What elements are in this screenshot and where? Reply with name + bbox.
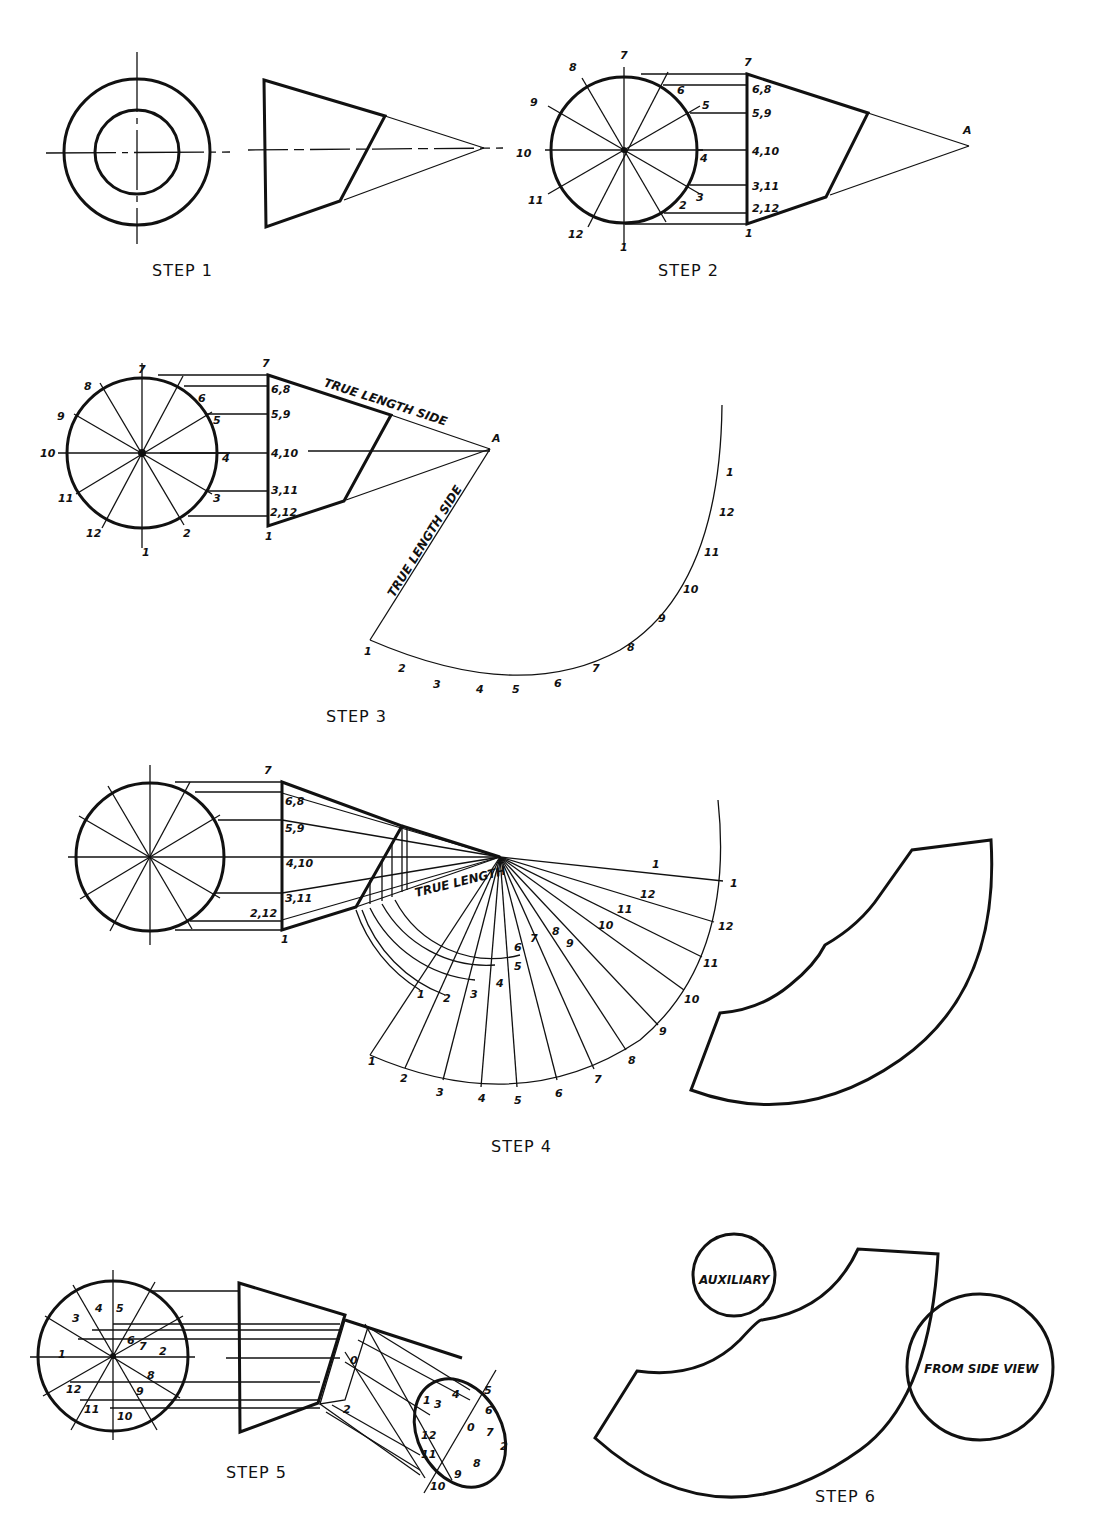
svg-text:10: 10 bbox=[430, 1480, 446, 1493]
svg-text:6: 6 bbox=[555, 1087, 563, 1100]
svg-text:1: 1 bbox=[417, 988, 425, 1001]
svg-text:6: 6 bbox=[677, 84, 685, 97]
svg-text:4: 4 bbox=[477, 1092, 486, 1105]
svg-text:1: 1 bbox=[423, 1394, 431, 1407]
step1-truncated-cone bbox=[264, 80, 385, 227]
svg-text:5,9: 5,9 bbox=[285, 822, 305, 835]
svg-text:9: 9 bbox=[659, 1025, 667, 1038]
svg-text:9: 9 bbox=[530, 96, 538, 109]
svg-text:5: 5 bbox=[116, 1302, 124, 1315]
svg-text:7: 7 bbox=[262, 357, 270, 370]
svg-text:1: 1 bbox=[265, 530, 273, 543]
svg-text:3: 3 bbox=[436, 1086, 444, 1099]
svg-text:2,12: 2,12 bbox=[752, 202, 779, 215]
svg-text:7: 7 bbox=[138, 363, 146, 376]
svg-text:4: 4 bbox=[221, 452, 230, 465]
step4-figure: 7 6,8 5,9 4,10 3,11 2,12 1 TRUE LENGTH 1… bbox=[68, 764, 992, 1107]
svg-text:0: 0 bbox=[467, 1421, 475, 1434]
step2-caption: STEP 2 bbox=[658, 261, 719, 280]
step3-caption: STEP 3 bbox=[326, 707, 387, 726]
svg-text:1: 1 bbox=[726, 466, 734, 479]
svg-text:1: 1 bbox=[58, 1348, 66, 1361]
svg-text:8: 8 bbox=[473, 1457, 481, 1470]
step1-figure bbox=[46, 52, 503, 244]
svg-text:1: 1 bbox=[652, 858, 660, 871]
step1-axis bbox=[248, 148, 503, 150]
svg-text:3: 3 bbox=[470, 988, 478, 1001]
svg-text:1: 1 bbox=[745, 227, 753, 240]
svg-text:12: 12 bbox=[719, 506, 735, 519]
svg-text:11: 11 bbox=[528, 194, 543, 207]
svg-text:6: 6 bbox=[198, 392, 206, 405]
svg-text:8: 8 bbox=[84, 380, 92, 393]
svg-text:10: 10 bbox=[40, 447, 56, 460]
svg-text:9: 9 bbox=[566, 937, 574, 950]
svg-text:7: 7 bbox=[264, 764, 272, 777]
svg-text:0: 0 bbox=[350, 1354, 358, 1367]
svg-text:6,8: 6,8 bbox=[271, 383, 291, 396]
svg-text:5: 5 bbox=[213, 414, 221, 427]
svg-text:3: 3 bbox=[696, 191, 704, 204]
svg-text:2: 2 bbox=[159, 1345, 167, 1358]
svg-text:5,9: 5,9 bbox=[752, 107, 772, 120]
step1-horizontal-centerline bbox=[46, 152, 230, 153]
svg-text:6: 6 bbox=[485, 1404, 493, 1417]
side-view-label: FROM SIDE VIEW bbox=[924, 1362, 1039, 1376]
svg-text:6: 6 bbox=[514, 941, 522, 954]
svg-text:4: 4 bbox=[451, 1388, 460, 1401]
drawing-sheet: STEP 1 7 8 9 10 11 12 1 2 bbox=[0, 0, 1107, 1533]
svg-text:10: 10 bbox=[117, 1410, 133, 1423]
svg-text:3: 3 bbox=[72, 1312, 80, 1325]
svg-text:1: 1 bbox=[620, 241, 628, 254]
svg-text:12: 12 bbox=[718, 920, 734, 933]
svg-text:5,9: 5,9 bbox=[271, 408, 291, 421]
svg-text:4: 4 bbox=[699, 152, 708, 165]
svg-text:2: 2 bbox=[500, 1440, 508, 1453]
auxiliary-label: AUXILIARY bbox=[698, 1273, 771, 1287]
svg-text:9: 9 bbox=[454, 1468, 462, 1481]
step6-caption: STEP 6 bbox=[815, 1487, 876, 1506]
svg-text:11: 11 bbox=[421, 1448, 436, 1461]
svg-text:10: 10 bbox=[516, 147, 532, 160]
svg-text:6,8: 6,8 bbox=[752, 83, 772, 96]
svg-text:3: 3 bbox=[433, 678, 441, 691]
svg-text:5: 5 bbox=[514, 1094, 522, 1107]
svg-text:1: 1 bbox=[730, 877, 738, 890]
step4-caption: STEP 4 bbox=[491, 1137, 552, 1156]
svg-text:1: 1 bbox=[368, 1055, 376, 1068]
svg-text:1: 1 bbox=[364, 645, 372, 658]
svg-text:5: 5 bbox=[512, 683, 520, 696]
svg-text:4,10: 4,10 bbox=[270, 447, 298, 460]
svg-text:10: 10 bbox=[683, 583, 699, 596]
svg-text:8: 8 bbox=[569, 61, 577, 74]
svg-text:5: 5 bbox=[484, 1384, 492, 1397]
svg-text:8: 8 bbox=[552, 925, 560, 938]
svg-text:8: 8 bbox=[627, 641, 635, 654]
step3-figure: 7 8 9 10 11 12 1 2 3 4 5 6 7 6,8 5,9 4,1… bbox=[40, 357, 735, 696]
svg-text:3,11: 3,11 bbox=[285, 892, 312, 905]
svg-text:11: 11 bbox=[704, 546, 719, 559]
svg-text:1: 1 bbox=[281, 933, 289, 946]
svg-text:2: 2 bbox=[443, 992, 451, 1005]
svg-text:9: 9 bbox=[57, 410, 65, 423]
svg-text:11: 11 bbox=[617, 903, 632, 916]
svg-text:3: 3 bbox=[213, 492, 221, 505]
svg-text:6: 6 bbox=[127, 1334, 135, 1347]
step4-outer-arc bbox=[370, 800, 721, 1084]
svg-text:A: A bbox=[491, 432, 501, 445]
svg-text:10: 10 bbox=[684, 993, 700, 1006]
step5-caption: STEP 5 bbox=[226, 1463, 287, 1482]
svg-text:6: 6 bbox=[554, 677, 562, 690]
svg-text:10: 10 bbox=[598, 919, 614, 932]
svg-text:11: 11 bbox=[58, 492, 73, 505]
svg-text:7: 7 bbox=[744, 56, 752, 69]
svg-text:11: 11 bbox=[703, 957, 718, 970]
svg-text:9: 9 bbox=[136, 1385, 144, 1398]
svg-text:4: 4 bbox=[94, 1302, 103, 1315]
step2-figure: 7 8 9 10 11 12 1 2 3 4 5 6 7 6,8 5,9 4,1… bbox=[516, 49, 972, 254]
true-length-side-label-top: TRUE LENGTH SIDE bbox=[322, 376, 450, 429]
svg-text:2: 2 bbox=[183, 527, 191, 540]
svg-text:8: 8 bbox=[628, 1054, 636, 1067]
svg-text:7: 7 bbox=[592, 662, 600, 675]
svg-text:11: 11 bbox=[84, 1403, 99, 1416]
